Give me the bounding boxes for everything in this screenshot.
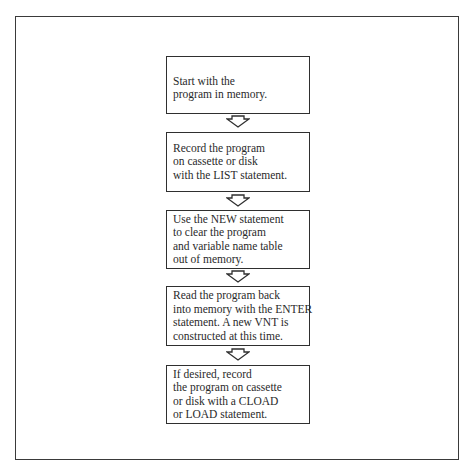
down-arrow-icon [226, 194, 250, 207]
step-4-line-4: constructed at this time. [173, 330, 303, 344]
down-arrow-icon [226, 348, 250, 361]
down-arrow-icon [226, 115, 250, 128]
step-5-line-4: or LOAD statement. [173, 408, 303, 422]
step-5-line-1: If desired, record [173, 368, 303, 382]
step-5-box: If desired, record the program on casset… [166, 365, 310, 424]
step-2-box: Record the program on cassette or disk w… [166, 132, 310, 192]
step-4-line-3: statement. A new VNT is [173, 316, 303, 330]
step-3-line-4: out of memory. [173, 253, 303, 267]
step-2-line-2: on cassette or disk [173, 155, 303, 169]
step-4-line-1: Read the program back [173, 289, 303, 303]
step-3-line-1: Use the NEW statement [173, 213, 303, 227]
step-2-line-3: with the LIST statement. [173, 169, 303, 183]
step-1-line-1: Start with the [173, 75, 303, 89]
step-3-line-3: and variable name table [173, 240, 303, 254]
step-1-line-2: program in memory. [173, 88, 303, 102]
step-1-box: Start with the program in memory. [166, 56, 310, 114]
down-arrow-icon [226, 270, 250, 283]
step-4-line-2: into memory with the ENTER [173, 303, 303, 317]
step-5-line-3: or disk with a CLOAD [173, 395, 303, 409]
step-5-line-2: the program on cassette [173, 381, 303, 395]
step-3-line-2: to clear the program [173, 226, 303, 240]
step-3-box: Use the NEW statement to clear the progr… [166, 210, 310, 269]
step-2-line-1: Record the program [173, 142, 303, 156]
step-4-box: Read the program back into memory with t… [166, 286, 310, 346]
